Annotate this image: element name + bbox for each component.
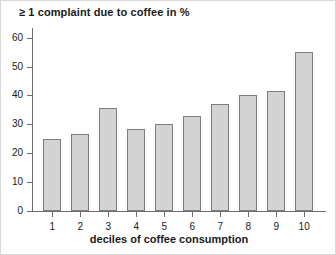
bar-decile-7 (211, 104, 229, 211)
bar-decile-5 (155, 124, 173, 211)
x-tick-10 (304, 212, 305, 217)
x-axis-line (32, 211, 326, 212)
y-tick-label-30: 30 (12, 118, 23, 129)
x-tick-label-5: 5 (161, 221, 167, 232)
x-tick-label-1: 1 (49, 221, 55, 232)
x-tick-label-7: 7 (217, 221, 223, 232)
x-tick-label-2: 2 (77, 221, 83, 232)
x-axis-label: deciles of coffee consumption (1, 233, 336, 245)
chart-title: ≥ 1 complaint due to coffee in % (19, 6, 190, 18)
bar-decile-3 (99, 108, 117, 211)
y-tick-0: 0 (27, 211, 32, 212)
x-tick-3 (108, 212, 109, 217)
x-tick-label-6: 6 (189, 221, 195, 232)
bar-decile-10 (295, 52, 313, 211)
x-tick-label-9: 9 (273, 221, 279, 232)
y-tick-label-40: 40 (12, 89, 23, 100)
bar-decile-2 (71, 134, 89, 211)
bar-decile-9 (267, 91, 285, 211)
bar-decile-6 (183, 116, 201, 211)
bar-decile-8 (239, 95, 257, 211)
x-tick-label-8: 8 (245, 221, 251, 232)
bar-decile-1 (43, 139, 61, 211)
x-tick-label-3: 3 (105, 221, 111, 232)
y-tick-label-50: 50 (12, 61, 23, 72)
bar-decile-4 (127, 129, 145, 211)
x-tick-6 (192, 212, 193, 217)
y-tick-label-60: 60 (12, 32, 23, 43)
y-tick-label-20: 20 (12, 147, 23, 158)
x-tick-8 (248, 212, 249, 217)
x-tick-9 (276, 212, 277, 217)
x-tick-label-10: 10 (299, 221, 310, 232)
chart-figure: ≥ 1 complaint due to coffee in % 0102030… (0, 0, 336, 255)
x-tick-4 (136, 212, 137, 217)
x-tick-5 (164, 212, 165, 217)
x-tick-1 (52, 212, 53, 217)
y-tick-label-0: 0 (17, 205, 23, 216)
x-tick-2 (80, 212, 81, 217)
plot-area (32, 29, 326, 211)
x-tick-7 (220, 212, 221, 217)
y-tick-label-10: 10 (12, 176, 23, 187)
x-tick-label-4: 4 (133, 221, 139, 232)
